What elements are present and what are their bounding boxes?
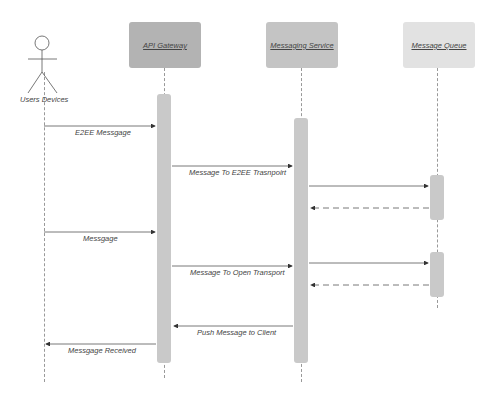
actor-icon: [28, 36, 57, 93]
message-label: Message To E2EE Trasnpoirt: [189, 168, 286, 177]
message-label: E2EE Messgage: [75, 128, 131, 137]
message-label: Messgage: [83, 234, 118, 243]
actor-label: Users Devices: [20, 95, 68, 104]
diagram-arrows: [0, 0, 493, 404]
message-label: Push Message to Client: [197, 328, 276, 337]
message-label: Message To Open Transport: [190, 268, 285, 277]
message-label: Messgage Received: [68, 346, 136, 355]
